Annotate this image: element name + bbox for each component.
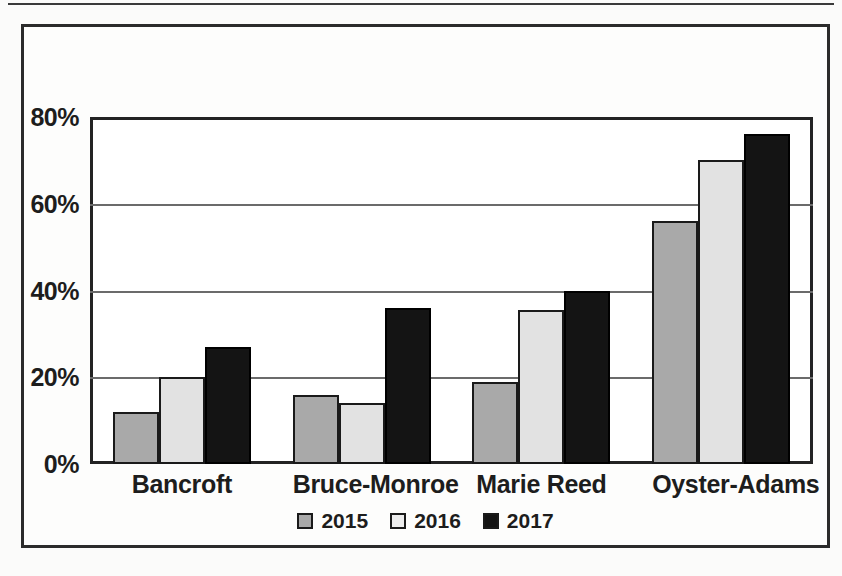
y-axis-tick-label: 80%	[30, 103, 79, 132]
x-axis-label: Bruce-Monroe	[293, 470, 431, 499]
bar-2017-bancroft[interactable]	[205, 347, 251, 464]
legend-label: 2016	[414, 509, 461, 533]
bar-group	[652, 117, 790, 464]
bar-group	[293, 117, 431, 464]
x-axis-label: Oyster-Adams	[652, 470, 790, 499]
bar-2016-marie-reed[interactable]	[518, 310, 564, 464]
legend-item-2017[interactable]: 2017	[483, 509, 554, 533]
legend-label: 2015	[321, 509, 368, 533]
bar-2017-oyster-adams[interactable]	[744, 134, 790, 464]
bars-layer	[90, 117, 813, 464]
legend-label: 2017	[507, 509, 554, 533]
x-axis-label: Marie Reed	[472, 470, 610, 499]
bar-2015-bancroft[interactable]	[113, 412, 159, 464]
bar-2015-oyster-adams[interactable]	[652, 221, 698, 464]
bar-2016-bancroft[interactable]	[159, 377, 205, 464]
chart-figure-frame: 0%20%40%60%80% BancroftBruce-MonroeMarie…	[21, 24, 830, 548]
chart-legend: 201520162017	[24, 509, 827, 533]
bar-2015-marie-reed[interactable]	[472, 382, 518, 464]
y-axis-tick-label: 0%	[44, 450, 79, 479]
square-swatch-icon	[390, 513, 406, 529]
y-axis-tick-label: 20%	[30, 363, 79, 392]
legend-item-2016[interactable]: 2016	[390, 509, 461, 533]
bar-2017-marie-reed[interactable]	[564, 291, 610, 465]
square-swatch-icon	[297, 513, 313, 529]
bar-2016-oyster-adams[interactable]	[698, 160, 744, 464]
x-axis-labels: BancroftBruce-MonroeMarie ReedOyster-Ada…	[90, 470, 813, 499]
bar-2017-bruce-monroe[interactable]	[385, 308, 431, 464]
y-axis-tick-label: 40%	[30, 276, 79, 305]
legend-item-2015[interactable]: 2015	[297, 509, 368, 533]
figure-page: 0%20%40%60%80% BancroftBruce-MonroeMarie…	[0, 0, 842, 576]
bar-2016-bruce-monroe[interactable]	[339, 403, 385, 464]
bar-group	[113, 117, 251, 464]
bar-2015-bruce-monroe[interactable]	[293, 395, 339, 464]
y-axis-tick-label: 60%	[30, 189, 79, 218]
x-axis-label: Bancroft	[113, 470, 251, 499]
square-swatch-icon	[483, 513, 499, 529]
bar-group	[472, 117, 610, 464]
plot-wrapper: 0%20%40%60%80%	[90, 117, 813, 464]
top-rule-divider	[8, 3, 834, 5]
